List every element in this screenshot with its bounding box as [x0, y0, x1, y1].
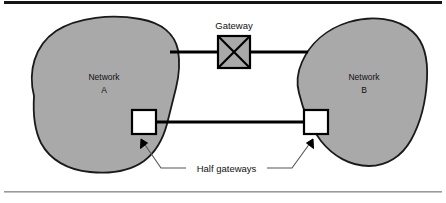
half-gateways-label: Half gateways — [197, 163, 257, 174]
network-b-label-line1: Network — [348, 72, 380, 82]
gateway-label: Gateway — [215, 20, 253, 31]
network-diagram: Network A Network B Gateway Half gateway… — [0, 0, 446, 203]
network-a-label-line1: Network — [88, 72, 120, 82]
top-rule — [4, 1, 442, 4]
bottom-rule — [4, 191, 442, 193]
leader-line-right — [267, 139, 313, 168]
figure-container: Network A Network B Gateway Half gateway… — [0, 0, 446, 203]
network-b-label-line2: B — [361, 85, 367, 95]
half-gateway-b[interactable] — [304, 110, 328, 134]
network-a-label-line2: A — [101, 85, 107, 95]
half-gateway-a[interactable] — [132, 110, 156, 134]
